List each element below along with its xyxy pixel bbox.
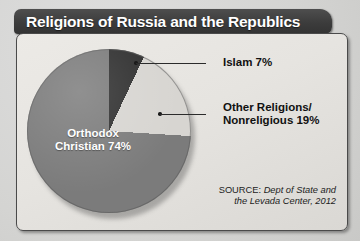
chart-title-banner: Religions of Russia and the Republics <box>14 9 332 34</box>
leader-line-islam <box>136 63 206 64</box>
source-label: SOURCE: <box>219 185 261 195</box>
source-note: SOURCE: Dept of State and the Levada Cen… <box>136 185 336 207</box>
callout-label-other: Other Religions/ Nonreligious 19% <box>223 101 320 127</box>
callout-label-islam: Islam 7% <box>223 56 272 69</box>
chart-panel: Orthodox Christian 74% Islam 7% Other Re… <box>16 33 348 231</box>
pie-slice-label-orthodox: Orthodox Christian 74% <box>41 127 145 152</box>
source-body-line2: the Levada Center, 2012 <box>234 196 336 206</box>
leader-line-other <box>160 114 206 115</box>
chart-screenshot: Religions of Russia and the Republics Or… <box>0 0 360 241</box>
page-title: Religions of Russia and the Republics <box>14 13 300 31</box>
source-body-line1: Dept of State and <box>261 185 336 195</box>
